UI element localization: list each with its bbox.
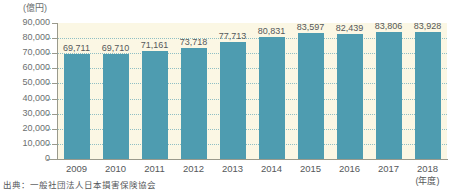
y-tick-label: 70,000 xyxy=(4,47,50,57)
y-tick-label: 80,000 xyxy=(4,32,50,42)
bar-value-label: 69,711 xyxy=(55,43,99,53)
y-tick-label: 10,000 xyxy=(4,138,50,148)
x-tick-label: 2012 xyxy=(172,163,216,174)
y-tick-label: 60,000 xyxy=(4,62,50,72)
bar-value-label: 82,439 xyxy=(328,23,372,33)
x-tick-label: 2013 xyxy=(211,163,255,174)
x-tick-label: 2009 xyxy=(55,163,99,174)
bar[interactable] xyxy=(64,54,90,159)
y-tick-label: 90,000 xyxy=(4,17,50,27)
bar[interactable] xyxy=(298,33,324,159)
bar-value-label: 77,713 xyxy=(211,31,255,41)
bar-value-label: 71,161 xyxy=(133,40,177,50)
x-tick-label: 2010 xyxy=(94,163,138,174)
bar[interactable] xyxy=(103,54,129,159)
y-tick-label: 0 xyxy=(4,153,50,163)
bar[interactable] xyxy=(337,34,363,159)
x-axis-unit-label: (年度) xyxy=(406,174,450,187)
bar-value-label: 80,831 xyxy=(250,26,294,36)
bar[interactable] xyxy=(376,32,402,159)
x-axis-line xyxy=(47,159,448,160)
x-tick-label: 2011 xyxy=(133,163,177,174)
bar-value-label: 73,718 xyxy=(172,37,216,47)
bar-value-label: 83,928 xyxy=(406,21,450,31)
bar-value-label: 69,710 xyxy=(94,43,138,53)
y-tick-label: 20,000 xyxy=(4,123,50,133)
bar-value-label: 83,806 xyxy=(367,21,411,31)
bar-value-label: 83,597 xyxy=(289,22,333,32)
x-tick-label: 2017 xyxy=(367,163,411,174)
bar-chart: (億円) 90,00080,00070,00060,00050,00040,00… xyxy=(0,0,456,192)
y-axis-unit-label: (億円) xyxy=(23,1,47,14)
x-tick-label: 2015 xyxy=(289,163,333,174)
bar[interactable] xyxy=(181,48,207,159)
y-tick-label: 40,000 xyxy=(4,93,50,103)
x-tick-label: 2014 xyxy=(250,163,294,174)
y-tick-label: 50,000 xyxy=(4,77,50,87)
y-tick-label: 30,000 xyxy=(4,108,50,118)
source-note: 出典：一般社団法人日本損害保険協会 xyxy=(3,178,156,190)
bar[interactable] xyxy=(220,42,246,159)
bar[interactable] xyxy=(415,32,441,159)
x-tick-label: 2018 xyxy=(406,163,450,174)
bar[interactable] xyxy=(142,51,168,159)
bar[interactable] xyxy=(259,37,285,159)
x-tick-label: 2016 xyxy=(328,163,372,174)
